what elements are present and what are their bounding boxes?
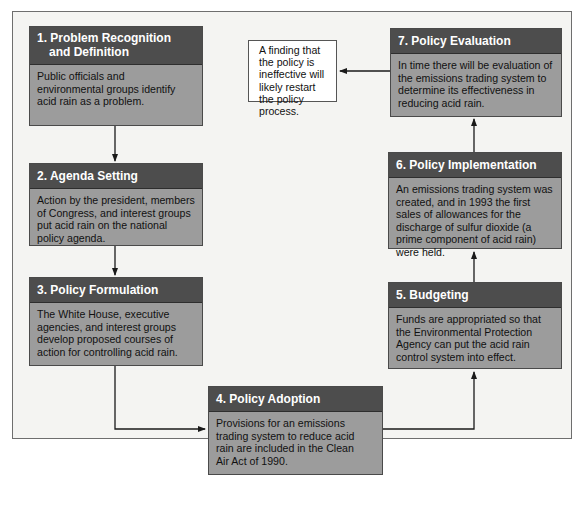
stage-7-policy-evaluation: 7. Policy Evaluation In time there will … [390,28,562,117]
stage-1-header: 1. Problem Recognition and Definition [30,27,202,65]
stage-1-problem-recognition: 1. Problem Recognition and Definition Pu… [29,26,203,126]
stage-5-header: 5. Budgeting [389,283,561,308]
stage-6-policy-implementation: 6. Policy Implementation An emissions tr… [388,152,562,249]
stage-2-description: Action by the president, members of Cong… [30,189,202,248]
stage-6-header: 6. Policy Implementation [389,153,561,178]
stage-2-header: 2. Agenda Setting [30,164,202,189]
stage-2-agenda-setting: 2. Agenda Setting Action by the presiden… [29,163,203,246]
stage-5-description: Funds are appropriated so that the Envir… [389,308,561,367]
arrow-4-to-5 [382,372,474,429]
stage-4-header: 4. Policy Adoption [209,387,382,412]
stage-3-policy-formulation: 3. Policy Formulation The White House, e… [29,277,203,366]
arrow-3-to-4 [115,366,205,429]
stage-7-header: 7. Policy Evaluation [391,29,561,54]
stage-5-budgeting: 5. Budgeting Funds are appropriated so t… [388,282,562,369]
stage-1-description: Public officials and environmental group… [30,65,202,112]
stage-3-description: The White House, executive agencies, and… [30,303,202,362]
stage-3-header: 3. Policy Formulation [30,278,202,303]
stage-7-description: In time there will be evaluation of the … [391,54,561,113]
stage-6-description: An emissions trading system was created,… [389,178,561,263]
restart-note: A finding that the policy is ineffective… [248,40,337,102]
stage-1-title-line1: 1. Problem Recognition [37,31,196,45]
stage-4-description: Provisions for an emissions trading syst… [209,412,382,471]
stage-1-title-line2: and Definition [37,45,196,59]
stage-4-policy-adoption: 4. Policy Adoption Provisions for an emi… [208,386,383,475]
